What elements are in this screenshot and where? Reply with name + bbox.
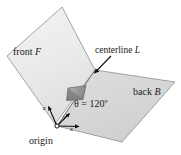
back-panel-label: back B xyxy=(133,87,161,97)
axis-x-label: x xyxy=(70,125,73,132)
front-panel-symbol: F xyxy=(35,46,41,57)
back-panel-label-text: back xyxy=(133,86,154,97)
origin-label: origin xyxy=(29,136,53,146)
centerline-label: centerline L xyxy=(95,46,140,56)
centerline-leader-arrow xyxy=(95,56,112,73)
back-panel-symbol: B xyxy=(154,86,160,97)
front-panel-label: front F xyxy=(13,47,41,57)
angle-label: θ = 120º xyxy=(74,99,108,109)
centerline-label-text: centerline xyxy=(95,45,135,55)
panel-fold-diagram xyxy=(0,0,181,155)
origin-point xyxy=(55,124,59,128)
axis-z-label: z xyxy=(43,104,46,111)
centerline-symbol: L xyxy=(135,45,140,55)
axis-x-line xyxy=(57,126,79,127)
front-panel-label-text: front xyxy=(13,46,35,57)
axis-y-label: y xyxy=(63,113,66,120)
